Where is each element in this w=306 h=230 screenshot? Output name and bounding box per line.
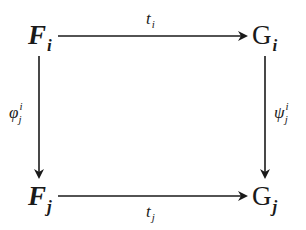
label-t-j-sub: j [152, 211, 155, 223]
node-g-i: Gi [252, 22, 277, 49]
label-psi-sup: i [286, 100, 289, 112]
label-t-j-base: t [146, 202, 151, 221]
node-g-i-sub: i [273, 36, 278, 55]
label-t-j: tj [146, 203, 155, 220]
node-f-j: Fj [28, 183, 52, 210]
label-t-i-base: t [146, 9, 151, 28]
label-phi-base: φ [9, 103, 18, 122]
node-g-j-sub: j [273, 197, 278, 216]
label-psi: ψij [274, 104, 288, 121]
node-f-i-base: F [28, 20, 46, 50]
node-f-i: Fi [28, 22, 52, 49]
label-t-i: ti [146, 10, 155, 27]
label-psi-base: ψ [274, 103, 285, 122]
label-phi: φij [9, 104, 22, 121]
label-phi-sub: j [18, 113, 21, 125]
node-f-j-base: F [28, 181, 46, 211]
node-f-i-sub: i [47, 36, 52, 55]
node-g-i-base: G [252, 20, 272, 50]
node-f-j-sub: j [47, 197, 52, 216]
node-g-j: Gj [252, 183, 277, 210]
label-psi-sub: j [285, 113, 288, 125]
label-t-i-sub: i [152, 18, 155, 30]
node-g-j-base: G [252, 181, 272, 211]
